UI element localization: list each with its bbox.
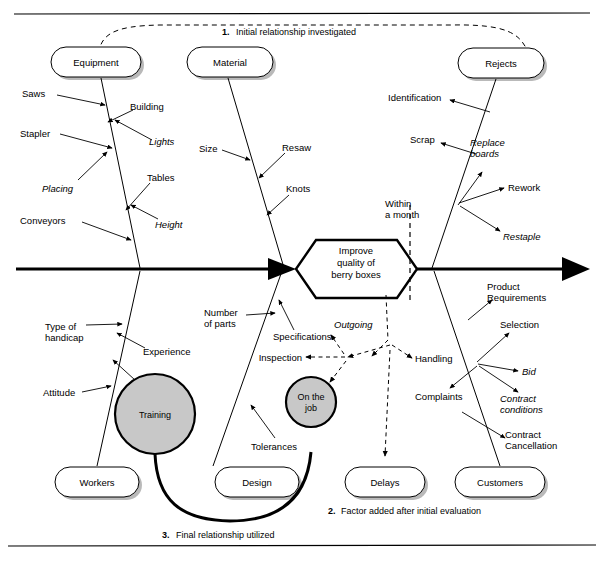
category-box-workers[interactable]: Workers [55, 467, 142, 500]
label-product-req-2: Requirements [487, 292, 546, 303]
label-building: Building [130, 101, 164, 112]
label-knots: Knots [286, 183, 311, 194]
category-label-material: Material [213, 57, 247, 68]
footnote-1-text: Initial relationship investigated [236, 27, 356, 37]
twig-resaw [259, 153, 285, 178]
category-box-rejects[interactable]: Rejects [458, 48, 547, 81]
label-replace-boards-2: boards [470, 148, 499, 159]
rib-design [213, 271, 282, 466]
dashed-delays-arrow [385, 350, 390, 456]
twig-restaple [460, 206, 500, 231]
footnote-2-text: Factor added after initial evaluation [341, 506, 481, 516]
category-box-design[interactable]: Design [215, 467, 302, 500]
category-box-delays[interactable]: Delays [345, 467, 428, 500]
effect-line-2: quality of [337, 257, 375, 268]
twig-placing [78, 152, 107, 180]
twig-bid [478, 364, 518, 371]
twig-saws [57, 95, 105, 105]
label-selection: Selection [500, 319, 539, 330]
dashed-handling-branch [372, 295, 388, 356]
label-bid: Bid [522, 366, 536, 377]
label-placing: Placing [42, 183, 74, 194]
fishbone-diagram-canvas: Improve quality of berry boxes Within a … [0, 0, 604, 562]
label-stapler: Stapler [20, 128, 50, 139]
rib-rejects [432, 79, 496, 268]
label-height: Height [155, 219, 183, 230]
twig-rework [459, 188, 504, 203]
category-label-delays: Delays [370, 477, 399, 488]
label-inspection: Inspection [259, 352, 302, 363]
label-lights: Lights [149, 136, 175, 147]
twig-lights [115, 120, 152, 140]
twig-number-of-parts [246, 313, 275, 315]
twig-conveyors [82, 222, 131, 240]
label-handling: Handling [415, 353, 453, 364]
label-contract-cond-1: Contract [500, 393, 536, 404]
label-complaints: Complaints [415, 391, 463, 402]
twig-replace-boards [458, 172, 482, 205]
dashed-onthejob-arrow [330, 361, 346, 382]
label-onthejob-1: On the [297, 392, 324, 402]
twig-product-requirements [468, 300, 492, 320]
twig-experience [117, 333, 145, 348]
dashed-handling-arrow [392, 345, 412, 358]
label-tables: Tables [147, 172, 175, 183]
label-size: Size [199, 143, 217, 154]
twig-tables [126, 183, 150, 210]
label-identification: Identification [388, 92, 441, 103]
twig-selection [477, 333, 509, 362]
label-scrap: Scrap [410, 134, 435, 145]
label-experience: Experience [143, 346, 191, 357]
top-rule [14, 13, 590, 14]
twig-tolerances [251, 405, 275, 438]
label-outgoing: Outgoing [334, 319, 373, 330]
effect-line-3: berry boxes [331, 269, 381, 280]
category-label-design: Design [242, 477, 272, 488]
special-node-on-the-job[interactable]: On the job [286, 377, 336, 427]
label-attitude: Attitude [43, 387, 75, 398]
footnote-1-number: 1. [222, 27, 230, 37]
bottom-rule [8, 545, 596, 546]
twig-height [131, 205, 158, 219]
twig-attitude [82, 386, 111, 392]
label-contract-canc-1: Contract [505, 429, 541, 440]
category-label-rejects: Rejects [485, 58, 517, 69]
fishbone-svg: Improve quality of berry boxes Within a … [0, 0, 604, 562]
label-replace-boards-1: Replace [470, 137, 505, 148]
category-label-workers: Workers [79, 477, 114, 488]
category-box-customers[interactable]: Customers [455, 467, 548, 500]
footnote-3-number: 3. [162, 530, 170, 540]
label-specifications: Specifications [273, 331, 332, 342]
label-type-of-2: handicap [45, 332, 84, 343]
label-product-req-1: Product [487, 281, 520, 292]
twig-identification [450, 100, 490, 112]
twig-stapler [60, 134, 112, 148]
within-a-month-line-2: a month [385, 209, 419, 220]
spine-right-arrowhead [562, 257, 590, 281]
label-rework: Rework [508, 182, 540, 193]
label-training: Training [139, 410, 171, 420]
label-onthejob-2: job [304, 403, 317, 413]
label-tolerances: Tolerances [251, 441, 297, 452]
label-type-of-1: Type of [45, 321, 77, 332]
category-box-equipment[interactable]: Equipment [51, 47, 144, 80]
label-saws: Saws [22, 88, 45, 99]
footnote-3-text: Final relationship utilized [176, 530, 275, 540]
special-node-training[interactable]: Training [115, 374, 195, 454]
label-contract-cond-2: conditions [500, 404, 543, 415]
label-restaple: Restaple [503, 231, 541, 242]
label-number-of-1: Number [204, 307, 238, 318]
twig-knots [267, 195, 289, 215]
category-label-equipment: Equipment [73, 57, 119, 68]
category-box-material[interactable]: Material [187, 47, 276, 80]
dashed-node-link [348, 345, 390, 357]
footnote-2-number: 2. [328, 506, 336, 516]
within-a-month-line-1: Within [385, 198, 411, 209]
category-label-customers: Customers [477, 477, 523, 488]
effect-line-1: Improve [339, 245, 373, 256]
rib-material [228, 78, 284, 268]
label-number-of-2: of parts [204, 318, 236, 329]
label-resaw: Resaw [282, 142, 311, 153]
dashed-outgoing-arrow [331, 335, 344, 354]
label-conveyors: Conveyors [20, 215, 66, 226]
